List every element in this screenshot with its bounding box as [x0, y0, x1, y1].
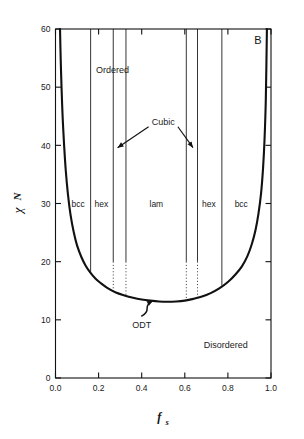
- y-tick-label: 20: [41, 257, 51, 267]
- phase-label-bcc: bcc: [72, 199, 86, 209]
- y-tick-label: 30: [41, 199, 51, 209]
- region-label-disordered: Disordered: [204, 340, 248, 350]
- phase-diagram-figure: 0102030405060 0.00.20.40.60.81.0 bcchexl…: [0, 0, 304, 439]
- phase-label-lam: lam: [150, 199, 164, 209]
- x-tick-label: 0.2: [93, 383, 105, 393]
- x-tick-label: 1.0: [265, 383, 277, 393]
- x-tick-label: 0.6: [179, 383, 191, 393]
- x-tick-label: 0.0: [50, 383, 62, 393]
- y-tick-label: 40: [41, 141, 51, 151]
- phase-diagram-svg: 0102030405060 0.00.20.40.60.81.0 bcchexl…: [0, 0, 304, 439]
- panel-label: B: [254, 34, 261, 46]
- y-axis-title-chi: χ: [10, 207, 25, 215]
- y-tick-label: 60: [41, 24, 51, 34]
- phase-label-hex: hex: [95, 199, 109, 209]
- y-tick-label: 10: [41, 315, 51, 325]
- y-axis-title-n: N: [11, 191, 23, 201]
- callout-label-cubic: Cubic: [152, 117, 176, 127]
- y-tick-label: 50: [41, 82, 51, 92]
- x-axis-title-subscript: s: [165, 417, 170, 427]
- callout-label-odt: ODT: [132, 320, 152, 330]
- phase-label-bcc: bcc: [235, 199, 249, 209]
- x-tick-label: 0.4: [136, 383, 148, 393]
- x-tick-label: 0.8: [222, 383, 234, 393]
- phase-label-hex: hex: [202, 199, 216, 209]
- region-label-ordered: Ordered: [96, 65, 129, 75]
- panel-label-text: B: [254, 34, 261, 46]
